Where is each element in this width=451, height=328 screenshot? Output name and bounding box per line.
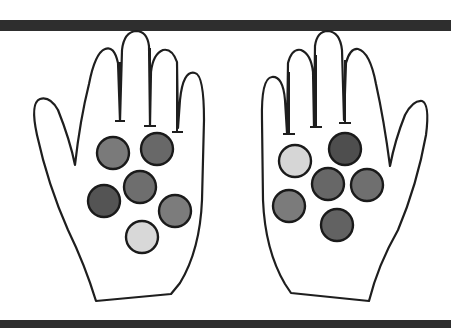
right-hand-coin-4 (351, 169, 383, 201)
right-hand-coin-1 (279, 145, 311, 177)
right-hand-coin-2 (329, 133, 361, 165)
right-hand-coin-5 (273, 190, 305, 222)
right-hand-coin-6 (321, 209, 353, 241)
left-hand-coin-5 (159, 195, 191, 227)
hands-illustration (0, 0, 451, 328)
left-hand-coin-4 (88, 185, 120, 217)
left-hand-coin-1 (97, 137, 129, 169)
left-hand-coin-2 (141, 133, 173, 165)
left-hand-coin-3 (124, 171, 156, 203)
left-hand-coin-6 (126, 221, 158, 253)
right-hand-coin-3 (312, 168, 344, 200)
